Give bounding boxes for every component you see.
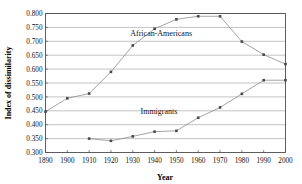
data-point-marker [219, 106, 222, 109]
data-point-marker [88, 137, 91, 140]
data-point-marker [66, 97, 69, 100]
data-point-marker [262, 53, 265, 56]
y-tick-label: 0.550 [26, 80, 43, 88]
data-point-marker [131, 135, 134, 138]
x-tick-label: 1960 [191, 157, 206, 165]
x-tick-label: 1890 [38, 157, 53, 165]
series-annotation-label: African-Americans [130, 29, 192, 38]
data-point-marker [241, 93, 244, 96]
data-point-marker [110, 140, 113, 143]
data-point-marker [241, 40, 244, 43]
data-point-marker [131, 44, 134, 47]
y-tick-label: 0.800 [26, 10, 43, 18]
x-axis-tick-labels: 1890190019101920193019401950196019701980… [38, 157, 293, 165]
x-tick-label: 1920 [104, 157, 119, 165]
data-point-marker [175, 130, 178, 133]
x-tick-label: 1930 [126, 157, 141, 165]
data-point-marker [44, 110, 47, 113]
y-tick-label: 0.750 [26, 24, 43, 32]
data-point-marker [197, 15, 200, 18]
line-chart: 0.3000.3500.4000.4500.5000.5500.6000.650… [0, 0, 302, 184]
x-tick-label: 1940 [147, 157, 162, 165]
y-tick-label: 0.400 [26, 121, 43, 129]
y-tick-label: 0.450 [26, 107, 43, 115]
data-point-marker [284, 79, 287, 82]
series-annotation-label: Immigrants [141, 107, 178, 116]
chart-container: 0.3000.3500.4000.4500.5000.5500.6000.650… [0, 0, 302, 184]
data-point-marker [153, 130, 156, 133]
data-point-marker [262, 79, 265, 82]
x-tick-label: 1990 [256, 157, 271, 165]
y-axis-tick-labels: 0.3000.3500.4000.4500.5000.5500.6000.650… [26, 10, 43, 157]
series-annotations: African-AmericansImmigrants [130, 29, 192, 116]
x-tick-label: 2000 [278, 157, 293, 165]
x-tick-label: 1950 [169, 157, 184, 165]
y-axis-title: Index of dissimilarity [4, 47, 13, 120]
y-tick-label: 0.500 [26, 94, 43, 102]
data-point-marker [175, 18, 178, 21]
x-tick-label: 1910 [82, 157, 97, 165]
data-point-marker [284, 63, 287, 66]
x-tick-label: 1900 [60, 157, 75, 165]
y-tick-label: 0.650 [26, 52, 43, 60]
y-tick-label: 0.600 [26, 66, 43, 74]
x-axis-title: Year [157, 173, 173, 182]
data-point-marker [219, 15, 222, 18]
y-tick-label: 0.350 [26, 135, 43, 143]
data-point-marker [197, 116, 200, 119]
data-point-marker [88, 92, 91, 95]
x-tick-label: 1980 [235, 157, 250, 165]
data-point-marker [110, 71, 113, 74]
x-tick-label: 1970 [213, 157, 228, 165]
y-tick-label: 0.700 [26, 38, 43, 46]
